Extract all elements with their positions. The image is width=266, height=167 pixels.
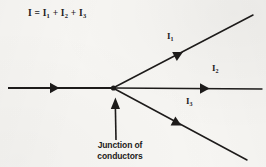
current-label-branch-3-sub: 3 <box>190 101 193 107</box>
conductor-branch-1-line <box>113 15 253 88</box>
equation-term-2: I2 <box>61 8 68 18</box>
figure-canvas: I = I1 + I2 + I3 I1 I2 I3 Junction of co… <box>0 0 266 167</box>
equation-term-1: I1 <box>43 8 50 18</box>
current-label-branch-3: I3 <box>186 96 193 107</box>
current-label-branch-1: I1 <box>167 31 174 42</box>
equation-term-2-sub: 2 <box>65 12 68 19</box>
equation-plus-1: + <box>53 8 59 18</box>
junction-caption-line-2: conductors <box>74 151 166 162</box>
equation-relation: = <box>34 8 40 18</box>
junction-node <box>111 85 116 90</box>
equation-plus-2: + <box>71 8 77 18</box>
junction-caption-line-1: Junction of <box>74 140 166 151</box>
conductor-branch-2-line <box>113 88 262 89</box>
current-arrowhead-branch-2 <box>200 83 210 93</box>
current-arrowhead-branch-1 <box>172 48 185 61</box>
current-arrowhead-branch-3 <box>171 117 184 130</box>
junction-pointer-arrowhead <box>111 98 120 110</box>
junction-pointer-line <box>115 108 116 140</box>
current-sum-equation: I = I1 + I2 + I3 <box>28 8 86 19</box>
equation-term-3-sub: 3 <box>83 12 86 19</box>
current-arrowhead-incoming <box>50 83 59 93</box>
current-label-branch-1-sub: 1 <box>171 36 174 42</box>
equation-term-1-sub: 1 <box>47 12 50 19</box>
equation-lhs: I <box>28 8 32 18</box>
junction-caption: Junction of conductors <box>74 140 166 161</box>
current-label-branch-2: I2 <box>212 63 219 74</box>
equation-term-3: I3 <box>79 8 86 18</box>
current-label-branch-2-sub: 2 <box>216 68 219 74</box>
